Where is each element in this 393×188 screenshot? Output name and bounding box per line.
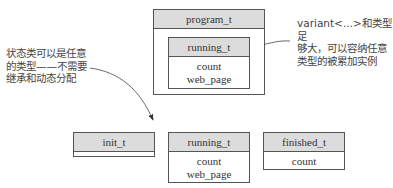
field-count: count <box>264 155 344 168</box>
finished-t-box: finished_t count <box>263 132 345 170</box>
running-t-header: running_t <box>169 133 249 152</box>
field-web-page: web_page <box>169 73 249 86</box>
field-count: count <box>169 155 249 168</box>
inner-running-t-fields: count web_page <box>169 57 249 86</box>
right-annotation: variant<...>和类型足 够大，可以容纳任意 类型的被累加实例 <box>297 17 393 67</box>
inner-running-t-header: running_t <box>169 38 249 57</box>
field-web-page: web_page <box>169 168 249 181</box>
left-annotation-arrow <box>90 68 153 120</box>
right-annotation-line-3: 类型的被累加实例 <box>297 55 393 68</box>
left-annotation-line-3: 继承和动态分配 <box>6 72 87 85</box>
program-t-header: program_t <box>154 10 264 29</box>
program-t-box: program_t running_t count web_page <box>153 9 265 95</box>
left-annotation-line-2: 的类型——不需要 <box>6 60 87 73</box>
init-t-header: init_t <box>74 133 154 152</box>
right-annotation-line-2: 够大，可以容纳任意 <box>297 42 393 55</box>
running-t-fields: count web_page <box>169 152 249 181</box>
running-t-box: running_t count web_page <box>168 132 250 183</box>
finished-t-header: finished_t <box>264 133 344 152</box>
right-annotation-line-1: variant<...>和类型足 <box>297 17 393 42</box>
left-annotation-line-1: 状态类可以是任意 <box>6 47 87 60</box>
init-t-box: init_t <box>73 132 155 157</box>
left-annotation: 状态类可以是任意 的类型——不需要 继承和动态分配 <box>6 47 87 85</box>
program-inner-running-t-box: running_t count web_page <box>168 37 250 89</box>
finished-t-fields: count <box>264 152 344 168</box>
field-count: count <box>169 60 249 73</box>
